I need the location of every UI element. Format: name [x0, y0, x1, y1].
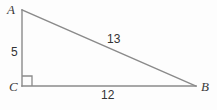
triangle-side-ab [22, 10, 196, 86]
vertex-label-a: A [7, 3, 15, 16]
right-angle-icon [22, 76, 32, 86]
vertex-label-b: B [201, 80, 209, 93]
side-length-label-cb: 12 [101, 89, 114, 101]
side-length-label-ac: 5 [11, 46, 18, 58]
geometry-figure-canvas: A C B 5 13 12 [0, 0, 217, 110]
vertex-label-c: C [9, 80, 18, 93]
side-length-label-ab: 13 [107, 33, 120, 45]
